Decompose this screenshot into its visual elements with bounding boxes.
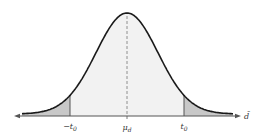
axis-variable-label: d̄: [244, 111, 250, 121]
axis-arrow-left-icon: [14, 114, 20, 118]
normal-curve-diagram: −t0 μd t0 d̄: [0, 0, 263, 138]
mean-label: μd: [122, 123, 131, 133]
right-cutoff-label: t0: [180, 122, 187, 132]
axis-arrow-right-icon: [235, 114, 241, 118]
left-cutoff-label: −t0: [63, 122, 77, 132]
